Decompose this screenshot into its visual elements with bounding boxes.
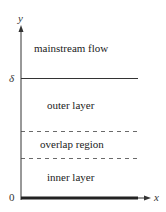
origin-label: 0 bbox=[9, 192, 15, 203]
region-label-inner: inner layer bbox=[47, 172, 94, 183]
boundary-layer-diagram: y x 0 δ mainstream flow outer layer over… bbox=[0, 0, 166, 212]
y-axis-label: y bbox=[18, 13, 23, 24]
x-axis-arrow-icon bbox=[144, 196, 151, 201]
region-label-mainstream: mainstream flow bbox=[34, 43, 108, 54]
y-axis-arrow-icon bbox=[19, 25, 24, 32]
region-label-outer: outer layer bbox=[47, 100, 94, 111]
x-axis-label: x bbox=[154, 192, 159, 203]
region-label-overlap: overlap region bbox=[40, 139, 104, 150]
delta-label: δ bbox=[9, 73, 14, 84]
